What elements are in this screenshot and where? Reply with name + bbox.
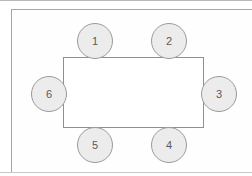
seat-2-label: 2 xyxy=(166,36,172,47)
table-rectangle xyxy=(63,57,204,128)
seat-6: 6 xyxy=(31,76,67,112)
seat-1-label: 1 xyxy=(92,36,98,47)
seat-1: 1 xyxy=(77,23,113,59)
seat-6-label: 6 xyxy=(46,89,52,100)
scan-edge-bottom xyxy=(0,172,252,173)
seating-diagram: 1 2 3 4 5 6 xyxy=(0,0,252,176)
seat-5-label: 5 xyxy=(92,140,98,151)
seat-3: 3 xyxy=(201,76,237,112)
seat-4-label: 4 xyxy=(166,140,172,151)
seat-3-label: 3 xyxy=(216,89,222,100)
scan-edge-top xyxy=(0,0,252,1)
seat-5: 5 xyxy=(77,127,113,163)
seat-2: 2 xyxy=(151,23,187,59)
seat-4: 4 xyxy=(151,127,187,163)
